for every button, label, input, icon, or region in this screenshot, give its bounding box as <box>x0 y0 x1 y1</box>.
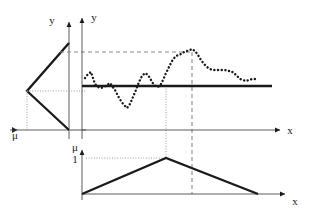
bottom-axis-one-label: 1 <box>72 153 78 165</box>
diagram-svg: μ y y x μ 1 x <box>0 0 311 216</box>
left-axis-y-label: y <box>49 14 55 26</box>
left-membership-panel <box>10 22 87 139</box>
main-axis-x-label: x <box>287 124 293 136</box>
main-signal-panel <box>82 18 280 139</box>
bottom-axis-x-label: x <box>292 195 298 207</box>
left-axis-mu-label: μ <box>12 129 18 141</box>
bottom-axis-mu-label: μ <box>72 141 78 153</box>
left-triangle-trace <box>27 43 69 130</box>
bottom-triangle-trace <box>82 158 258 194</box>
figure-canvas: μ y y x μ 1 x <box>0 0 311 216</box>
signal-trace <box>85 49 258 108</box>
cross-panel-guides <box>60 52 192 194</box>
main-axis-y-label: y <box>91 11 97 23</box>
